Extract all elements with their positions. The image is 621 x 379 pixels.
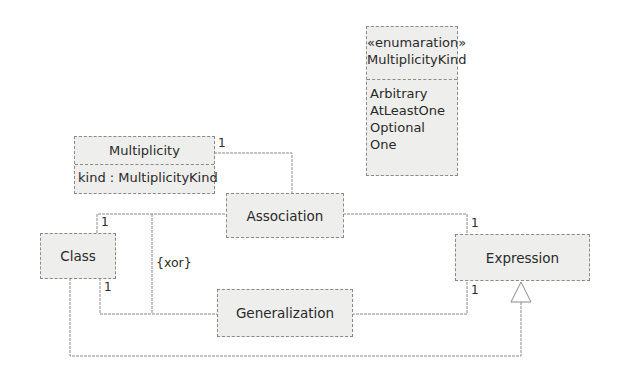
multiplicity-attribute: kind : MultiplicityKind: [75, 169, 214, 186]
generalization-class-box[interactable]: Generalization: [217, 289, 353, 337]
enum-literal: Optional: [367, 119, 457, 136]
expression-association-end-label: 1: [471, 217, 479, 230]
enum-name: MultiplicityKind: [367, 51, 457, 68]
expression-name: Expression: [456, 235, 589, 280]
enum-literal: One: [367, 136, 457, 153]
class-association-link: [97, 214, 226, 233]
class-generalization-link: [100, 278, 217, 314]
enum-multiplicitykind-box[interactable]: «enumaration» MultiplicityKind Arbitrary…: [366, 26, 458, 176]
expression-class-box[interactable]: Expression: [455, 234, 590, 281]
xor-constraint-label: {xor}: [156, 256, 192, 269]
association-name: Association: [227, 194, 343, 237]
uml-diagram-canvas: «enumaration» MultiplicityKind Arbitrary…: [0, 0, 621, 379]
multiplicity-name: Multiplicity: [75, 137, 214, 164]
inheritance-triangle-icon: [511, 282, 531, 302]
generalization-expression-link: [352, 280, 467, 314]
class-association-end-label: 1: [101, 216, 109, 229]
expression-generalization-end-label: 1: [471, 284, 479, 297]
multiplicity-end-label: 1: [218, 137, 226, 150]
generalization-name: Generalization: [218, 290, 352, 336]
enum-literal: Arbitrary: [367, 85, 457, 102]
association-expression-link: [343, 214, 467, 234]
class-name: Class: [41, 234, 115, 278]
enum-stereotype: «enumaration»: [367, 34, 457, 51]
multiplicity-association-link: [214, 153, 292, 193]
multiplicity-class-box[interactable]: Multiplicity kind : MultiplicityKind: [74, 136, 215, 194]
class-generalization-end-label: 1: [104, 281, 112, 294]
enum-literal: AtLeastOne: [367, 102, 457, 119]
association-class-box[interactable]: Association: [226, 193, 344, 238]
class-class-box[interactable]: Class: [40, 233, 116, 279]
